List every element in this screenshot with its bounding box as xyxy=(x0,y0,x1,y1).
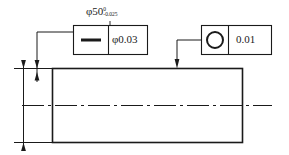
dimension-tolerance-stack: 0-0.025 xyxy=(103,7,117,18)
dimension-nominal: φ50 xyxy=(86,5,103,17)
dimension-arrow-outer-bottom xyxy=(21,143,26,152)
leader-arrow-circularity xyxy=(175,59,180,69)
dimension-lower-tolerance: -0.025 xyxy=(103,12,117,18)
straightness-tolerance-value: φ0.03 xyxy=(112,33,138,45)
engineering-drawing: φ500-0.025 φ0.03 0.01 xyxy=(0,0,289,155)
dimension-arrow-inner-top xyxy=(35,72,40,81)
leader-arrow-straightness xyxy=(35,60,40,69)
circularity-icon xyxy=(207,32,223,48)
dimension-arrow-outer-top xyxy=(21,60,26,69)
circularity-tolerance-value: 0.01 xyxy=(236,33,255,45)
drawing-canvas xyxy=(0,0,289,155)
diameter-dimension-label: φ500-0.025 xyxy=(86,5,118,18)
